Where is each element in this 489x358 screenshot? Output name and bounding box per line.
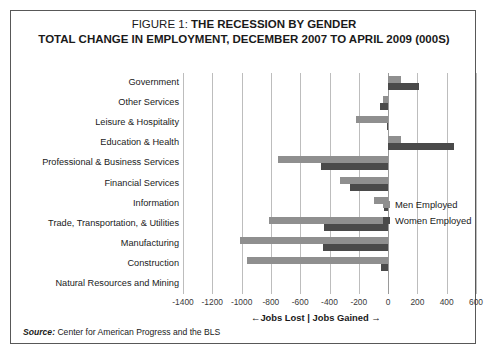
category-label: Other Services	[19, 97, 179, 107]
category-label: Trade, Transportation, & Utilities	[19, 218, 179, 228]
bar-women	[323, 244, 388, 251]
bar-men	[278, 156, 388, 163]
legend-label-women: Women Employed	[395, 215, 471, 226]
source-label: Source:	[23, 327, 55, 337]
bars-layer	[183, 73, 476, 294]
x-axis-caption: ←Jobs Lost | Jobs Gained →	[251, 312, 381, 323]
bar-men	[247, 257, 388, 264]
category-label: Construction	[19, 258, 179, 268]
category-label: Manufacturing	[19, 238, 179, 248]
x-tick-label: 600	[456, 297, 489, 307]
bar-men	[356, 116, 388, 123]
figure-subtitle: TOTAL CHANGE IN EMPLOYMENT, DECEMBER 200…	[11, 32, 477, 47]
figure-title-block: FIGURE 1: THE RECESSION BY GENDER TOTAL …	[11, 17, 477, 47]
legend-swatch-women-icon	[383, 217, 390, 224]
bar-men	[388, 76, 401, 83]
category-label: Financial Services	[19, 178, 179, 188]
x-axis-tick-labels: -1400-1200-1000-800-600-400-200020040060…	[183, 297, 476, 311]
figure-title-line-1: FIGURE 1: THE RECESSION BY GENDER	[11, 17, 477, 32]
category-label: Information	[19, 198, 179, 208]
legend-item-men: Men Employed	[383, 197, 471, 211]
legend-label-men: Men Employed	[395, 199, 458, 210]
source-note: Source: Center for American Progress and…	[23, 327, 220, 337]
bar-women	[350, 184, 388, 191]
legend-item-women: Women Employed	[383, 213, 471, 227]
category-label: Natural Resources and Mining	[19, 278, 179, 288]
category-axis-labels: GovernmentOther ServicesLeisure & Hospit…	[19, 73, 179, 294]
bar-men	[240, 237, 388, 244]
bar-men	[383, 96, 388, 103]
category-label: Leisure & Hospitality	[19, 117, 179, 127]
bar-men	[340, 177, 388, 184]
bar-women	[381, 264, 388, 271]
category-label: Professional & Business Services	[19, 157, 179, 167]
legend-swatch-men-icon	[383, 201, 390, 208]
source-text: Center for American Progress and the BLS	[57, 327, 220, 337]
figure-number: FIGURE 1:	[132, 18, 188, 30]
chart-legend: Men Employed Women Employed	[383, 197, 471, 229]
category-label: Education & Health	[19, 137, 179, 147]
bar-women	[387, 123, 388, 130]
bar-women	[388, 83, 419, 90]
bar-women	[380, 103, 388, 110]
gridline	[476, 73, 477, 294]
bar-women	[324, 224, 388, 231]
category-label: Government	[19, 77, 179, 87]
plot-area	[183, 73, 476, 294]
bar-men	[269, 217, 388, 224]
figure-frame: FIGURE 1: THE RECESSION BY GENDER TOTAL …	[10, 10, 476, 344]
bar-women	[321, 163, 388, 170]
bar-men	[388, 136, 401, 143]
bar-women	[388, 143, 454, 150]
figure-title-main: THE RECESSION BY GENDER	[191, 18, 356, 30]
